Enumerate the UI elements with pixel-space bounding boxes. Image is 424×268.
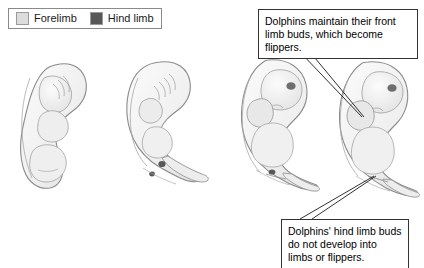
eye-stage-3 xyxy=(286,82,295,90)
dolphin-embryo-figure: Forelimb Hind limb Dolphins maintain the… xyxy=(0,0,424,268)
legend-item-hindlimb: Hind limb xyxy=(90,12,154,25)
legend-label-forelimb: Forelimb xyxy=(34,12,77,25)
embryo-stage-2 xyxy=(127,62,209,184)
hind-limb-bud-stage-2 xyxy=(158,161,165,167)
callout-hind-limb: Dolphins' hind limb buds do not develop … xyxy=(281,219,409,268)
color-swatch-icon-hindlimb xyxy=(90,12,103,25)
embryo-stage-4 xyxy=(340,62,420,197)
callout-front-limb: Dolphins maintain their front limb buds,… xyxy=(258,9,418,59)
eye-stage-4 xyxy=(387,84,396,92)
embryo-stage-3 xyxy=(242,60,320,191)
leader-line-hind-limb-b xyxy=(312,176,376,219)
hind-limb-bud-stage-3 xyxy=(269,169,276,174)
legend: Forelimb Hind limb xyxy=(8,8,162,29)
color-swatch-icon-forelimb xyxy=(16,12,29,25)
legend-item-forelimb: Forelimb xyxy=(16,12,77,25)
embryo-stage-1 xyxy=(21,64,87,189)
forelimb-bud-stage-3 xyxy=(247,99,273,127)
legend-label-hindlimb: Hind limb xyxy=(108,12,154,25)
